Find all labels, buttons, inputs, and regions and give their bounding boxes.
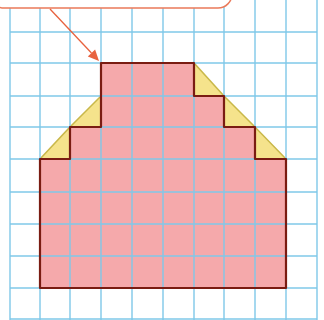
- arrow-line: [50, 9, 91, 53]
- yellow-triangle: [255, 127, 286, 159]
- yellow-triangle: [194, 63, 224, 96]
- yellow-triangle: [224, 96, 255, 127]
- callout-rect: [0, 0, 232, 8]
- callout-box: [0, 0, 232, 8]
- yellow-triangle: [40, 127, 70, 159]
- arrow-icon: [50, 9, 99, 61]
- yellow-triangle: [70, 96, 101, 127]
- grid-figure: [0, 0, 324, 320]
